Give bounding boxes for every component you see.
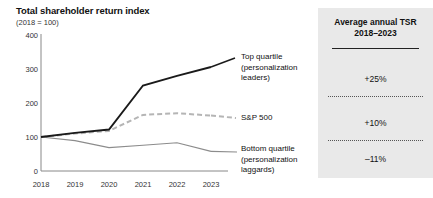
panel-value-sp500: +10% (318, 118, 433, 128)
average-annual-tsr-panel: Average annual TSR 2018–2023 +25% +10% –… (318, 8, 433, 178)
panel-divider-2 (328, 140, 423, 141)
series-label-top-quartile: Top quartile (personalization leaders) (241, 52, 297, 84)
panel-value-bottom-quartile: –11% (318, 154, 433, 164)
series-label-top-quartile-line1: Top quartile (241, 52, 297, 63)
series-label-sp500-line1: S&P 500 (241, 113, 272, 124)
series-label-sp500: S&P 500 (241, 113, 272, 124)
panel-divider-1 (328, 96, 423, 97)
series-label-bottom-quartile-line2: (personalization (241, 155, 297, 166)
series-label-bottom-quartile-line1: Bottom quartile (241, 144, 297, 155)
chart-container: Total shareholder return index (2018 = 1… (0, 0, 310, 198)
series-line-bottom-quartile (41, 137, 211, 151)
panel-value-top-quartile: +25% (318, 74, 433, 84)
panel-title: Average annual TSR 2018–2023 (318, 17, 433, 39)
series-label-bottom-quartile-line3: laggards) (241, 165, 297, 176)
series-label-bottom-quartile: Bottom quartile (personalization laggard… (241, 144, 297, 176)
series-line-top-quartile (41, 67, 211, 137)
panel-title-rule (332, 48, 419, 49)
callout-leader-sp500 (211, 116, 236, 118)
callout-leader-top-quartile (211, 58, 235, 67)
series-label-top-quartile-line2: (personalization (241, 63, 297, 74)
panel-title-line2: 2018–2023 (318, 28, 433, 39)
callout-leader-bottom-quartile (211, 151, 237, 152)
series-label-top-quartile-line3: leaders) (241, 73, 297, 84)
panel-title-line1: Average annual TSR (318, 17, 433, 28)
